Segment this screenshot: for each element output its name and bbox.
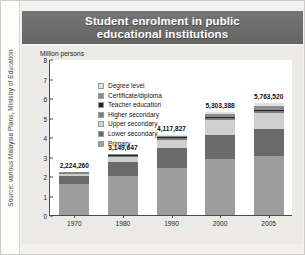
x-axis-tick-label: 1970 xyxy=(67,220,82,227)
chart-title-line-2: educational institutions xyxy=(97,28,228,40)
x-axis-tick-mark xyxy=(123,215,124,218)
bar-segment-primary xyxy=(59,184,89,215)
source-note: Source: various Malaysia Plans, Ministry… xyxy=(6,49,13,206)
legend-swatch-icon xyxy=(98,93,104,99)
bar-segment-primary xyxy=(108,176,138,215)
plot-area: 012345678 2,224,2603,149,6474,117,8275,3… xyxy=(49,60,292,216)
legend-item-primary[interactable]: Primary xyxy=(98,140,162,148)
legend-item-label: Degree level xyxy=(108,82,145,90)
x-axis-tick-label: 2000 xyxy=(213,220,228,227)
y-axis-tick-mark xyxy=(50,157,53,158)
legend-item-label: Upper secondary xyxy=(108,120,158,128)
y-axis-tick-mark xyxy=(50,99,53,100)
y-axis-tick-mark xyxy=(50,79,53,80)
legend-item-lower-secondary[interactable]: Lower secondary xyxy=(98,130,162,138)
bar-segment-primary xyxy=(157,168,187,215)
bar-segment-lower-secondary xyxy=(157,148,187,168)
x-axis-tick-mark xyxy=(269,215,270,218)
chart-title-bar: Student enrolment in public educational … xyxy=(22,11,303,44)
page-title: Student enrolment in public educational … xyxy=(85,15,240,41)
chart-panel: Million persons 012345678 2,224,2603,149… xyxy=(22,46,303,244)
y-axis-tick-mark xyxy=(50,138,53,139)
bar-value-label: 5,763,520 xyxy=(254,93,283,100)
source-strip: Source: various Malaysia Plans, Ministry… xyxy=(0,0,20,255)
legend-swatch-icon xyxy=(98,141,104,147)
legend-swatch-icon xyxy=(98,131,104,137)
bar-segment-lower-secondary xyxy=(254,129,284,155)
y-axis-tick-mark xyxy=(50,118,53,119)
y-axis-tick-mark xyxy=(50,196,53,197)
x-axis-tick-mark xyxy=(172,215,173,218)
legend-item-certificate-diploma[interactable]: Certificate/diploma xyxy=(98,92,162,100)
bar-segment-upper-secondary xyxy=(254,113,284,129)
bar-2005 xyxy=(254,103,284,215)
legend-item-teacher-education[interactable]: Teacher education xyxy=(98,101,162,109)
chart-legend: Degree levelCertificate/diplomaTeacher e… xyxy=(98,82,162,148)
legend-swatch-icon xyxy=(98,121,104,127)
bar-segment-upper-secondary xyxy=(205,120,235,134)
y-axis-tick-mark xyxy=(50,60,53,61)
bar-1980 xyxy=(108,154,138,215)
legend-item-label: Certificate/diploma xyxy=(108,92,162,100)
bar-1970 xyxy=(59,172,89,215)
x-axis-tick-label: 2005 xyxy=(261,220,276,227)
legend-swatch-icon xyxy=(98,112,104,118)
legend-item-higher-secondary[interactable]: Higher secondary xyxy=(98,111,162,119)
legend-item-label: Primary xyxy=(108,140,130,148)
bar-segment-lower-secondary xyxy=(108,162,138,176)
bar-value-label: 2,224,260 xyxy=(60,162,89,169)
legend-item-upper-secondary[interactable]: Upper secondary xyxy=(98,120,162,128)
y-axis-tick-mark xyxy=(50,177,53,178)
chart-figure: Source: various Malaysia Plans, Ministry… xyxy=(0,0,305,255)
bar-value-label: 5,303,388 xyxy=(205,102,234,109)
legend-swatch-icon xyxy=(98,102,104,108)
bar-segment-lower-secondary xyxy=(205,135,235,159)
bar-2000 xyxy=(205,112,235,215)
bar-segment-lower-secondary xyxy=(59,176,89,183)
y-axis-tick-mark xyxy=(50,216,53,217)
bar-segment-primary xyxy=(205,159,235,215)
bar-segment-primary xyxy=(254,156,284,215)
x-axis-tick-label: 1990 xyxy=(164,220,179,227)
legend-item-label: Teacher education xyxy=(108,101,161,109)
x-axis-tick-label: 1980 xyxy=(116,220,131,227)
legend-swatch-icon xyxy=(98,83,104,89)
legend-item-degree-level[interactable]: Degree level xyxy=(98,82,162,90)
x-axis-tick-mark xyxy=(220,215,221,218)
chart-title-line-1: Student enrolment in public xyxy=(85,15,240,27)
legend-item-label: Higher secondary xyxy=(108,111,159,119)
x-axis-tick-mark xyxy=(74,215,75,218)
legend-item-label: Lower secondary xyxy=(108,130,158,138)
